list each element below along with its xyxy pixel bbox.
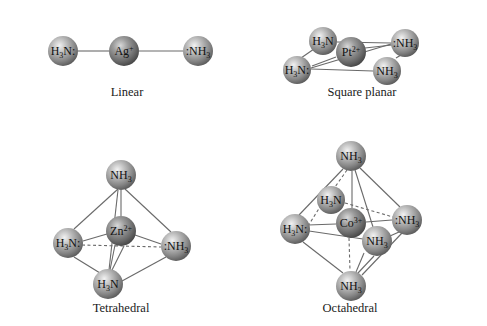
- caption-linear: Linear: [111, 85, 144, 99]
- atoms-layer: H3N:Ag+:NH3H3N:NH3Pt2+H3N:NH3NH3Zn2+H3N:…: [48, 27, 422, 301]
- caption-tetrahedral: Tetrahedral: [93, 301, 150, 315]
- atom-label: H3N:: [56, 236, 81, 252]
- ligand-sphere: NH3: [336, 271, 366, 301]
- atom-label: H3N:: [51, 44, 76, 60]
- ligand-sphere: :NH3: [161, 231, 191, 261]
- dashed-bond-line: [349, 238, 350, 271]
- atom-label: H3N:: [285, 63, 310, 79]
- ligand-sphere: :NH3: [391, 29, 419, 57]
- geometry-linear: H3N:Ag+:NH3: [48, 36, 213, 66]
- metal-ion-sphere: Zn2+: [106, 216, 136, 246]
- bond-line: [301, 49, 314, 58]
- metal-ion-sphere: Pt2+: [336, 37, 366, 67]
- bond-line: [360, 168, 400, 207]
- coordination-geometry-diagram: H3N:Ag+:NH3H3N:NH3Pt2+H3N:NH3NH3Zn2+H3N:…: [0, 0, 487, 326]
- ligand-sphere: H3N: [309, 27, 337, 55]
- bond-line: [303, 242, 343, 273]
- bond-line: [390, 232, 399, 236]
- atom-label: H3N:: [283, 222, 308, 238]
- caption-square-planar: Square planar: [327, 85, 397, 99]
- dashed-bond-line: [335, 170, 347, 187]
- ligand-sphere: NH3: [373, 57, 401, 85]
- ligand-sphere: :NH3: [392, 205, 422, 235]
- bond-line: [366, 220, 392, 222]
- ligand-sphere: H3N:: [280, 214, 310, 244]
- ligand-sphere: NH3: [362, 226, 392, 256]
- bond-line: [74, 257, 100, 273]
- bond-line: [122, 257, 166, 281]
- ligand-sphere: H3N:: [53, 228, 83, 258]
- bond-line: [308, 224, 336, 225]
- ligand-sphere: H3N:: [283, 56, 311, 84]
- ligand-sphere: H3N:: [48, 36, 78, 66]
- ligand-sphere: H3N: [93, 269, 123, 299]
- dashed-bond-line: [308, 207, 320, 226]
- geometry-tetrahedral: NH3Zn2+H3N::NH3H3N: [53, 160, 191, 299]
- ligand-sphere: NH3: [106, 160, 136, 190]
- ligand-sphere: NH3: [336, 141, 366, 171]
- ligand-sphere: H3N: [317, 186, 345, 214]
- ligand-sphere: :NH3: [183, 36, 213, 66]
- bond-line: [356, 253, 364, 272]
- bond-line: [135, 235, 161, 244]
- metal-ion-sphere: Co3+: [336, 208, 366, 238]
- metal-ion-sphere: Ag+: [109, 36, 139, 66]
- bond-line: [83, 234, 107, 241]
- geometry-octahedral: NH3H3NCo3+:NH3H3N:NH3NH3: [280, 141, 422, 301]
- bond-line: [311, 69, 373, 71]
- caption-octahedral: Octahedral: [323, 301, 378, 315]
